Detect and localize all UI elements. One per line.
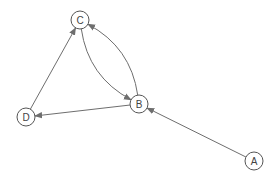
edge-d-to-c: [30, 28, 75, 109]
node-label: D: [22, 112, 29, 123]
node-b: B: [130, 95, 148, 113]
graph-canvas: ABCD: [0, 0, 278, 184]
node-label: B: [136, 99, 143, 110]
node-label: A: [251, 156, 258, 167]
node-label: C: [76, 15, 83, 26]
node-c: C: [71, 11, 89, 29]
edge-b-to-c: [88, 24, 138, 95]
edge-b-to-d: [35, 105, 130, 116]
edge-c-to-b: [81, 29, 131, 100]
nodes-layer: ABCD: [17, 11, 263, 170]
edges-layer: [30, 24, 246, 157]
node-a: A: [245, 152, 263, 170]
edge-a-to-b: [147, 108, 246, 157]
node-d: D: [17, 108, 35, 126]
